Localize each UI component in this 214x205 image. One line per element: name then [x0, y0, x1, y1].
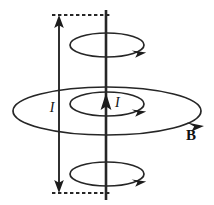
inner-loop-arrowhead	[132, 110, 147, 117]
current-label-wire: I	[114, 95, 121, 110]
upper-loop-arrowhead	[132, 51, 147, 58]
physics-diagram-figure: I I B	[0, 0, 214, 205]
field-label-b: B	[186, 127, 196, 143]
lower-loop-arrowhead	[132, 180, 147, 187]
current-label-left: I	[49, 100, 56, 115]
diagram-canvas: I I B	[0, 0, 214, 205]
